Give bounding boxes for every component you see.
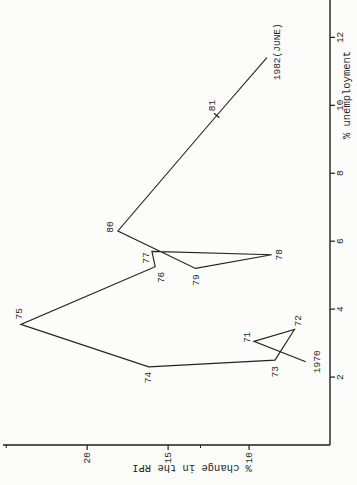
point-label-81: 81 bbox=[207, 99, 218, 111]
x-tick-label-8: 8 bbox=[335, 170, 346, 176]
y-tick-label-15: 15 bbox=[163, 452, 174, 464]
point-label-75: 75 bbox=[14, 308, 25, 320]
point-label-73: 73 bbox=[270, 366, 281, 378]
point-label-72: 72 bbox=[293, 315, 304, 327]
x-tick-label-4: 4 bbox=[335, 306, 346, 312]
point-label-79: 79 bbox=[191, 274, 202, 286]
data-curve bbox=[21, 58, 306, 367]
point-label-1970: 1970 bbox=[312, 350, 323, 373]
x-axis-title: % unemployment bbox=[341, 51, 353, 139]
point-label-1982(JUNE): 1982(JUNE) bbox=[272, 23, 283, 80]
rotated-chart-container: % unemployment % change in the RPI 24681… bbox=[0, 0, 357, 485]
point-label-76: 76 bbox=[156, 271, 167, 283]
point-label-80: 80 bbox=[105, 221, 116, 233]
x-tick-label-12: 12 bbox=[335, 31, 346, 43]
scanned-figure-page: % unemployment % change in the RPI 24681… bbox=[0, 0, 357, 485]
point-label-77: 77 bbox=[141, 252, 152, 263]
x-tick-label-10: 10 bbox=[335, 99, 346, 111]
x-tick-label-2: 2 bbox=[335, 374, 346, 380]
point-label-71: 71 bbox=[242, 331, 253, 343]
y-axis-title: % change in the RPI bbox=[132, 462, 252, 474]
y-tick-label-10: 10 bbox=[244, 452, 255, 464]
x-tick-label-6: 6 bbox=[335, 238, 346, 244]
point-label-78: 78 bbox=[274, 249, 285, 261]
phillips-curve-chart: % unemployment % change in the RPI 24681… bbox=[0, 0, 357, 485]
point-label-74: 74 bbox=[143, 372, 154, 384]
y-tick-label-20: 20 bbox=[82, 452, 93, 464]
